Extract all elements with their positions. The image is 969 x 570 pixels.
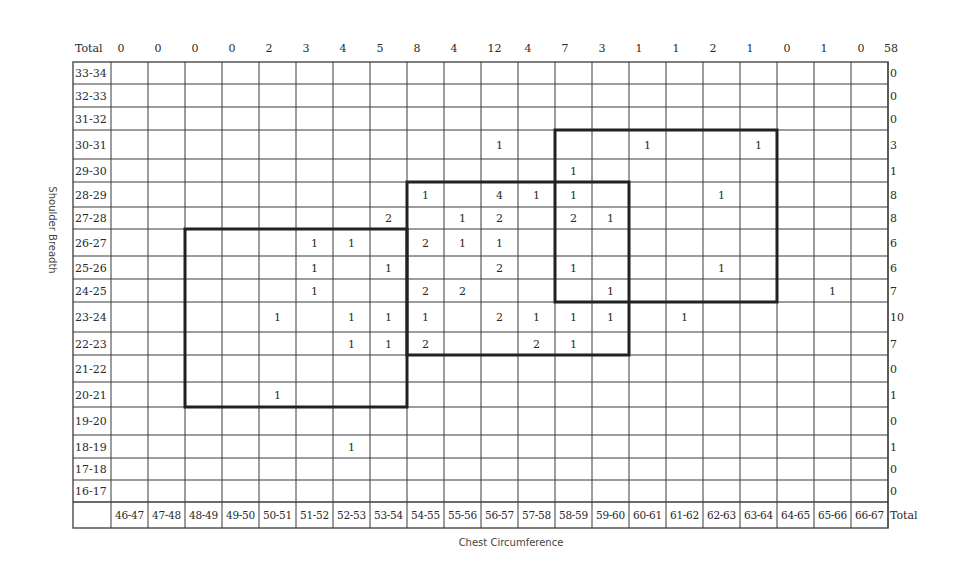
- column-total: 1: [747, 42, 754, 55]
- column-label: 62-63: [707, 509, 736, 521]
- cell-value: 4: [496, 189, 503, 202]
- cell-value: 1: [755, 139, 762, 152]
- column-total: 0: [229, 42, 236, 55]
- column-total: 0: [858, 42, 865, 55]
- column-label: 58-59: [559, 509, 588, 521]
- row-total: 0: [890, 363, 897, 376]
- row-total: 0: [890, 485, 897, 498]
- column-total: 1: [821, 42, 828, 55]
- row-label: 19-20: [75, 415, 107, 428]
- cell-value: 1: [681, 311, 688, 324]
- y-axis-title: Shoulder Breadth: [47, 186, 58, 273]
- row-label: 21-22: [75, 363, 107, 376]
- grand-total: 58: [884, 42, 898, 55]
- column-total: 0: [784, 42, 791, 55]
- column-total: 12: [488, 42, 502, 55]
- cell-value: 2: [533, 338, 540, 351]
- cell-value: 1: [644, 139, 651, 152]
- row-total: 6: [890, 237, 897, 250]
- column-total: 5: [377, 42, 384, 55]
- column-total: 4: [340, 42, 347, 55]
- cell-value: 1: [607, 311, 614, 324]
- column-label: 47-48: [152, 509, 181, 521]
- row-label: 26-27: [75, 237, 107, 250]
- row-total: 7: [890, 285, 897, 298]
- column-total: 3: [599, 42, 606, 55]
- row-label: 28-29: [75, 189, 107, 202]
- column-label: 66-67: [855, 509, 884, 521]
- cell-value: 1: [829, 285, 836, 298]
- column-total: 4: [525, 42, 532, 55]
- row-label: 23-24: [75, 311, 107, 324]
- column-label: 55-56: [448, 509, 477, 521]
- column-label: 53-54: [374, 509, 403, 521]
- cell-value: 1: [385, 262, 392, 275]
- x-axis-title: Chest Circumference: [459, 537, 564, 548]
- row-label: 17-18: [75, 463, 107, 476]
- row-total: 6: [890, 262, 897, 275]
- cell-value: 1: [718, 189, 725, 202]
- cell-value: 1: [385, 311, 392, 324]
- cell-value: 1: [311, 285, 318, 298]
- cell-value: 2: [570, 212, 577, 225]
- column-total: 1: [636, 42, 643, 55]
- row-label: 18-19: [75, 441, 107, 454]
- row-label: 30-31: [75, 139, 107, 152]
- cell-value: 2: [496, 262, 503, 275]
- column-totals-label: Total: [75, 42, 103, 55]
- row-label: 27-28: [75, 212, 107, 225]
- row-label: 33-34: [75, 67, 107, 80]
- row-total: 7: [890, 338, 897, 351]
- cell-value: 1: [348, 441, 355, 454]
- cell-value: 2: [496, 212, 503, 225]
- row-total: 8: [890, 212, 897, 225]
- cell-value: 1: [570, 338, 577, 351]
- column-total: 4: [451, 42, 458, 55]
- column-label: 64-65: [781, 509, 810, 521]
- row-total: 0: [890, 90, 897, 103]
- row-label: 16-17: [75, 485, 107, 498]
- column-total: 2: [710, 42, 717, 55]
- cell-value: 1: [718, 262, 725, 275]
- row-total: 1: [890, 389, 897, 402]
- cell-value: 1: [607, 285, 614, 298]
- row-label: 25-26: [75, 262, 107, 275]
- cell-value: 2: [422, 285, 429, 298]
- cell-value: 1: [496, 139, 503, 152]
- cell-value: 2: [422, 237, 429, 250]
- cell-value: 1: [570, 165, 577, 178]
- cell-value: 1: [311, 262, 318, 275]
- row-total: 0: [890, 415, 897, 428]
- cell-value: 2: [385, 212, 392, 225]
- cell-value: 2: [496, 311, 503, 324]
- column-total: 0: [192, 42, 199, 55]
- column-label: 51-52: [300, 509, 329, 521]
- column-total: 0: [118, 42, 125, 55]
- cell-value: 1: [348, 311, 355, 324]
- row-label: 24-25: [75, 285, 107, 298]
- cell-value: 2: [422, 338, 429, 351]
- cell-value: 1: [570, 262, 577, 275]
- row-totals-label: Total: [890, 509, 918, 522]
- cell-value: 1: [274, 389, 281, 402]
- cell-value: 1: [607, 212, 614, 225]
- cell-value: 2: [459, 285, 466, 298]
- table-grid: [73, 62, 888, 528]
- table-labels: Total00002345841247311210105833-34032-33…: [75, 42, 918, 522]
- column-total: 7: [562, 42, 569, 55]
- column-label: 57-58: [522, 509, 551, 521]
- row-total: 0: [890, 67, 897, 80]
- row-total: 0: [890, 463, 897, 476]
- row-total: 0: [890, 113, 897, 126]
- cell-value: 1: [422, 189, 429, 202]
- row-total: 8: [890, 189, 897, 202]
- cell-value: 1: [274, 311, 281, 324]
- frequency-table-chart: 1111141112122111211112111221111112111111…: [0, 0, 969, 570]
- column-label: 61-62: [670, 509, 699, 521]
- column-label: 46-47: [115, 509, 144, 521]
- cell-value: 1: [422, 311, 429, 324]
- column-label: 63-64: [744, 509, 773, 521]
- row-total: 3: [890, 139, 897, 152]
- row-label: 29-30: [75, 165, 107, 178]
- row-total: 1: [890, 441, 897, 454]
